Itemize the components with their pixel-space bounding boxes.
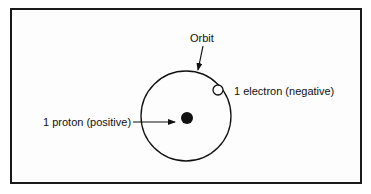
electron-label: 1 electron (negative) — [234, 86, 334, 97]
orbit-label: Orbit — [190, 33, 214, 44]
atom-diagram — [0, 0, 371, 194]
electron-particle — [213, 85, 223, 95]
proton-nucleus — [181, 112, 193, 124]
orbit-arrow — [198, 46, 203, 70]
proton-label: 1 proton (positive) — [43, 117, 131, 128]
